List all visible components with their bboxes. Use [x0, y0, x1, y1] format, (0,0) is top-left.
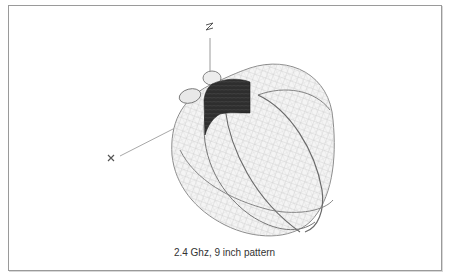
- figure-caption: 2.4 Ghz, 9 inch pattern: [0, 247, 449, 258]
- z-axis-label-icon: [206, 23, 213, 30]
- radiation-pattern-plot: [0, 0, 449, 279]
- x-axis-label-icon: [108, 155, 114, 161]
- x-axis: [108, 128, 175, 161]
